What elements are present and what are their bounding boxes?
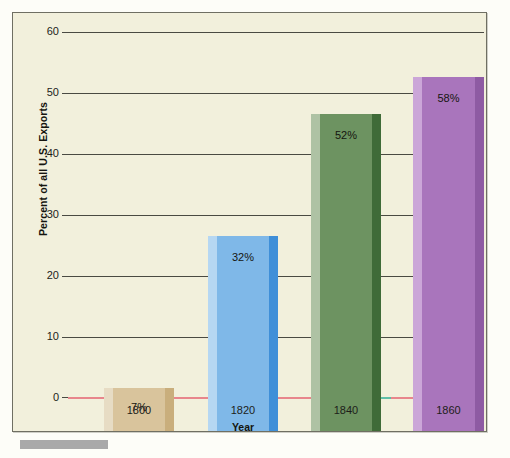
bar-edge-left [413,77,422,431]
ytick-label-0: 0 [13,392,59,403]
tick-40 [62,154,68,155]
bar-edge-left [311,114,320,431]
ytick-label-30: 30 [13,209,59,220]
y-axis-title: Percent of all U.S. Exports [37,79,49,259]
x-axis-title: Year [208,421,278,433]
ytick-label-60: 60 [13,26,59,37]
xtick-label-1840: 1840 [311,405,381,416]
bar-edge-right [475,77,484,431]
tick-50 [62,93,68,94]
bar-edge-right [372,114,381,431]
bar-1860[interactable]: 58% [413,77,484,431]
plot-area: 60 50 40 30 20 10 0 Percent of all U.S. … [13,13,486,431]
bar-value-label: 52% [311,130,381,141]
bar-value-label: 58% [413,93,484,104]
bar-1840[interactable]: 52% [311,114,381,431]
tick-10 [62,337,68,338]
bar-face [208,236,278,431]
ytick-label-20: 20 [13,270,59,281]
tick-20 [62,276,68,277]
ytick-label-40: 40 [13,148,59,159]
tick-30 [62,215,68,216]
tick-0 [62,397,68,398]
ytick-text: 60 [15,26,59,37]
ytick-text: 0 [15,392,59,403]
ytick-text: 10 [15,331,59,342]
bar-face [311,114,381,431]
xtick-label-1800: 1800 [104,405,174,416]
ytick-text: 20 [15,270,59,281]
ytick-label-10: 10 [13,331,59,342]
xtick-label-1820: 1820 [208,405,278,416]
bar-face [413,77,484,431]
ytick-label-50: 50 [13,87,59,98]
chart-frame: 60 50 40 30 20 10 0 Percent of all U.S. … [12,12,487,432]
bar-1820[interactable]: 32% [208,236,278,431]
footer-swatch [20,440,108,449]
bar-edge-left [208,236,217,431]
tick-60 [62,32,68,33]
bar-value-label: 32% [208,252,278,263]
figure: 60 50 40 30 20 10 0 Percent of all U.S. … [0,0,510,458]
bar-edge-right [269,236,278,431]
gridline-60 [68,32,484,33]
xtick-label-1860: 1860 [413,405,484,416]
